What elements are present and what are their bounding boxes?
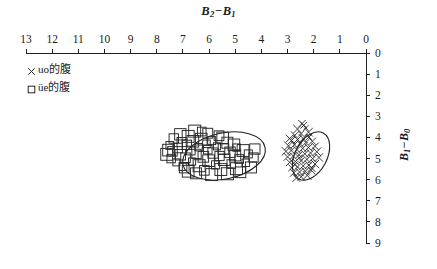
chart-root: B2−B1 131211109876543210 0123456789 B1−B… (0, 0, 437, 269)
series-square (161, 125, 270, 187)
scatter-layer (0, 0, 437, 269)
series-cross (282, 120, 338, 186)
